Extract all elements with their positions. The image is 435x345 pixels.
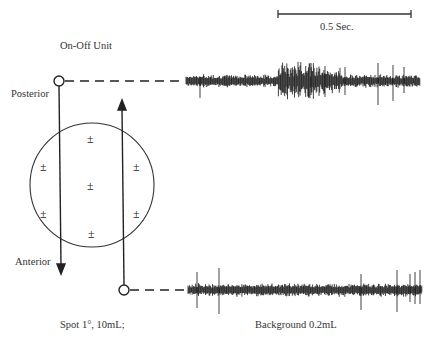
field-symbol-upper-left: ± — [40, 161, 47, 173]
diagram-canvas — [0, 0, 435, 345]
sweep-down-arrow — [54, 76, 65, 274]
field-symbol-upper-right: ± — [133, 161, 140, 173]
field-symbol-lower-left: ± — [40, 208, 47, 220]
spike-trace-bottom — [188, 268, 422, 314]
background-label: Background 0.2mL — [255, 319, 337, 330]
unit-title: On-Off Unit — [60, 40, 112, 51]
stimulus-label: Spot 1°, 10mL; — [60, 319, 125, 330]
anterior-label: Anterior — [15, 256, 51, 267]
posterior-label: Posterior — [11, 88, 49, 99]
field-symbol-lower-right: ± — [133, 208, 140, 220]
scale-bar — [278, 10, 411, 18]
scale-bar-label: 0.5 Sec. — [320, 21, 354, 32]
field-symbol-center: ± — [87, 180, 94, 192]
field-symbol-top: ± — [87, 133, 94, 145]
spike-trace-top — [186, 62, 420, 105]
field-symbol-bottom: ± — [88, 228, 95, 240]
